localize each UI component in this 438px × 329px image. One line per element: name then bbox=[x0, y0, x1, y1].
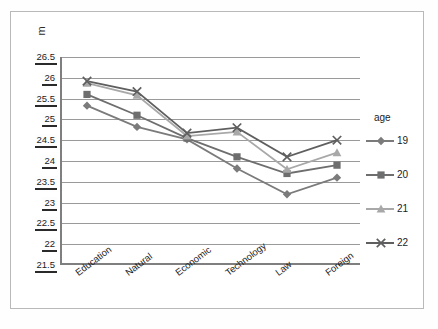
data-point-marker bbox=[133, 112, 140, 119]
series-line bbox=[87, 83, 337, 169]
legend-label: 22 bbox=[397, 236, 408, 250]
legend-marker-icon bbox=[374, 202, 386, 214]
y-axis-tick-labels: 26.52625.52524.52423.52322.52221.5 bbox=[20, 57, 57, 265]
y-axis-title: m bbox=[30, 20, 52, 42]
legend-marker-icon bbox=[374, 134, 386, 146]
y-tick-label: 21.5 bbox=[35, 259, 58, 273]
chart-legend: age 19202122 bbox=[366, 112, 432, 252]
legend-entry[interactable]: 19 bbox=[366, 134, 430, 148]
legend-label: 21 bbox=[397, 202, 408, 216]
data-point-marker bbox=[83, 101, 91, 109]
y-tick-label: 23.5 bbox=[35, 176, 58, 190]
data-point-marker bbox=[283, 190, 291, 198]
legend-marker-icon bbox=[374, 168, 386, 180]
chart-figure: m 26.52625.52524.52423.52322.52221.5 Edu… bbox=[0, 0, 438, 329]
y-tick-label: 24 bbox=[42, 155, 57, 169]
y-tick-label: 23 bbox=[42, 197, 57, 211]
legend-entry[interactable]: 21 bbox=[366, 202, 430, 216]
series-line bbox=[87, 106, 337, 195]
legend-marker-icon bbox=[374, 236, 386, 248]
y-tick-label: 25.5 bbox=[35, 93, 58, 107]
data-point-marker bbox=[333, 162, 340, 169]
data-point-marker bbox=[283, 153, 291, 161]
data-point-marker bbox=[133, 123, 141, 131]
legend-entry[interactable]: 22 bbox=[366, 236, 430, 250]
legend-entry[interactable]: 20 bbox=[366, 168, 430, 182]
y-tick-label: 22 bbox=[42, 238, 57, 252]
data-point-marker bbox=[333, 136, 341, 144]
y-tick-label: 22.5 bbox=[35, 217, 58, 231]
legend-label: 20 bbox=[397, 168, 408, 182]
x-axis-tick-labels: EducationNaturalEconomicTechnologyLawFor… bbox=[60, 265, 360, 325]
data-point-marker bbox=[83, 91, 90, 98]
y-tick-label: 26 bbox=[42, 72, 57, 86]
y-tick-label: 25 bbox=[42, 113, 57, 127]
data-point-marker bbox=[333, 173, 341, 181]
plot-area bbox=[60, 57, 360, 265]
y-tick-label: 26.5 bbox=[35, 51, 58, 65]
legend-title: age bbox=[374, 112, 391, 123]
data-point-marker bbox=[233, 153, 240, 160]
y-tick-label: 24.5 bbox=[35, 134, 58, 148]
data-point-marker bbox=[333, 148, 342, 156]
series-lines bbox=[62, 57, 362, 265]
data-point-marker bbox=[233, 164, 241, 172]
legend-label: 19 bbox=[397, 134, 408, 148]
